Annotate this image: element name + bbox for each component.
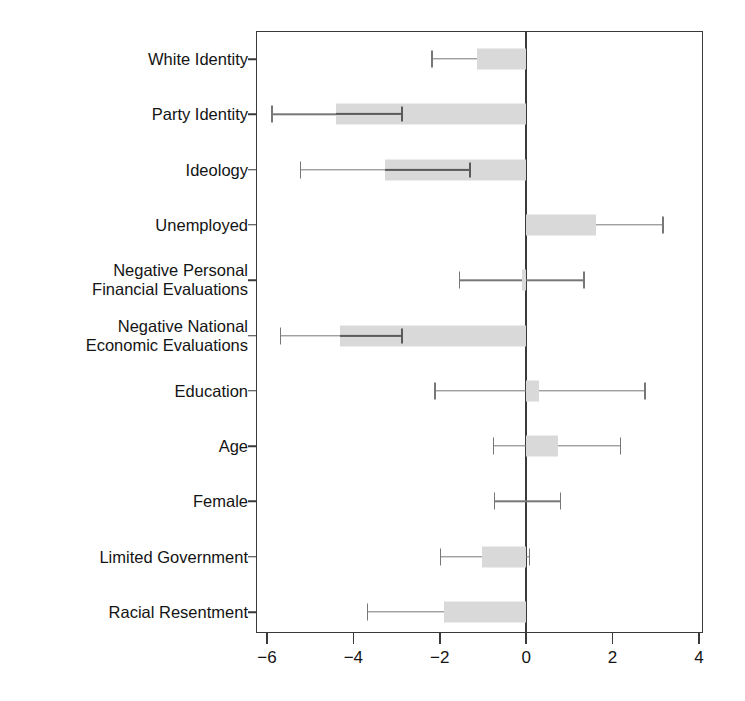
- x-axis-tick: [525, 633, 527, 644]
- ci-cap-low: [459, 272, 460, 289]
- category-label: White Identity: [0, 50, 248, 69]
- x-axis-tick: [353, 633, 355, 644]
- ci-cap-high: [529, 548, 530, 565]
- y-axis-tick: [248, 335, 256, 337]
- category-label: Limited Government: [0, 547, 248, 566]
- category-label: Age: [0, 437, 248, 456]
- inner-interval-line: [385, 169, 470, 171]
- x-axis-tick: [612, 633, 614, 644]
- x-axis-tick-label: −2: [430, 648, 449, 668]
- y-axis-tick: [248, 501, 256, 503]
- ci-cap-low: [300, 161, 301, 178]
- ci-cap-low: [494, 493, 495, 510]
- ci-cap-high: [620, 438, 621, 455]
- x-axis-tick: [698, 633, 700, 644]
- ci-cap-low: [280, 327, 281, 344]
- estimate-bar: [526, 436, 558, 457]
- ci-cap-low: [271, 106, 272, 123]
- y-axis-tick: [248, 114, 256, 116]
- y-axis-tick: [248, 58, 256, 60]
- category-label: Negative National Economic Evaluations: [0, 317, 248, 355]
- inner-interval-cap: [401, 328, 403, 343]
- category-label: Racial Resentment: [0, 603, 248, 622]
- ci-cap-low: [493, 438, 494, 455]
- ci-cap-low: [434, 382, 435, 399]
- x-axis-tick: [439, 633, 441, 644]
- category-label: Ideology: [0, 160, 248, 179]
- inner-interval-cap: [469, 162, 471, 177]
- estimate-bar: [526, 214, 596, 235]
- ci-cap-low: [367, 604, 368, 621]
- category-label: Party Identity: [0, 105, 248, 124]
- y-axis-tick: [248, 169, 256, 171]
- estimate-bar: [444, 602, 526, 623]
- y-axis-tick: [248, 611, 256, 613]
- x-axis-tick: [266, 633, 268, 644]
- x-axis-tick-label: −6: [257, 648, 276, 668]
- ci-cap-high: [662, 216, 663, 233]
- estimate-bar: [526, 380, 539, 401]
- category-label: Education: [0, 381, 248, 400]
- y-axis-tick: [248, 556, 256, 558]
- confidence-interval-line: [494, 501, 560, 502]
- ci-cap-high: [560, 493, 561, 510]
- category-label: Negative Personal Financial Evaluations: [0, 261, 248, 299]
- y-axis-tick: [248, 279, 256, 281]
- estimate-bar: [482, 546, 526, 567]
- y-axis-tick: [248, 224, 256, 226]
- category-label: Female: [0, 492, 248, 511]
- estimate-bar: [477, 49, 526, 70]
- category-label: Unemployed: [0, 215, 248, 234]
- ci-cap-low: [440, 548, 441, 565]
- ci-cap-high: [583, 272, 584, 289]
- inner-interval-line: [340, 334, 402, 336]
- confidence-interval-line: [435, 390, 645, 391]
- x-axis-tick-label: 4: [694, 648, 703, 668]
- x-axis-tick-label: 2: [608, 648, 617, 668]
- estimate-bar: [522, 270, 526, 291]
- ci-cap-low: [431, 51, 432, 68]
- y-axis-tick: [248, 390, 256, 392]
- inner-interval-cap: [401, 107, 403, 122]
- x-axis-tick-label: −4: [344, 648, 363, 668]
- y-axis-tick: [248, 445, 256, 447]
- ci-cap-high: [644, 382, 645, 399]
- inner-interval-line: [336, 113, 402, 115]
- x-axis-tick-label: 0: [521, 648, 530, 668]
- coefficient-plot: White IdentityParty IdentityIdeologyUnem…: [0, 0, 745, 701]
